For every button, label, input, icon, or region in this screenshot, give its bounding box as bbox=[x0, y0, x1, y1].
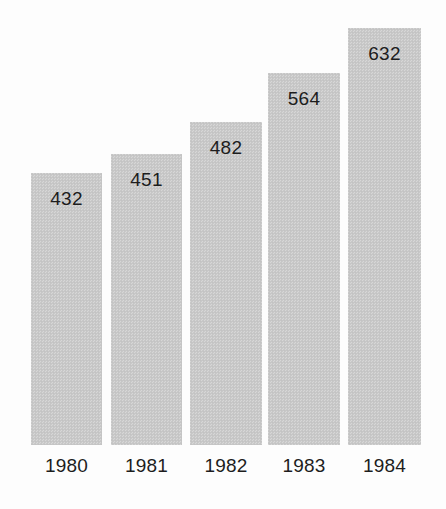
bar-group-1983: 564 1983 bbox=[268, 0, 340, 509]
bar-group-1982: 482 1982 bbox=[190, 0, 262, 509]
axis-tick-label-1984: 1984 bbox=[348, 456, 421, 475]
axis-tick-label-1982: 1982 bbox=[190, 456, 262, 475]
plot-area: 432 1980 451 1981 482 1982 564 1983 632 … bbox=[0, 0, 446, 509]
bar-group-1980: 432 1980 bbox=[31, 0, 102, 509]
bar-group-1984: 632 1984 bbox=[348, 0, 421, 509]
axis-tick-label-1980: 1980 bbox=[31, 456, 102, 475]
bar-1983[interactable] bbox=[268, 73, 340, 445]
bar-1984[interactable] bbox=[348, 28, 421, 445]
axis-tick-label-1983: 1983 bbox=[268, 456, 340, 475]
bar-group-1981: 451 1981 bbox=[111, 0, 182, 509]
bar-chart: 432 1980 451 1981 482 1982 564 1983 632 … bbox=[0, 0, 446, 509]
bar-1980[interactable] bbox=[31, 173, 102, 445]
bar-1981[interactable] bbox=[111, 154, 182, 445]
axis-tick-label-1981: 1981 bbox=[111, 456, 182, 475]
bar-1982[interactable] bbox=[190, 122, 262, 445]
